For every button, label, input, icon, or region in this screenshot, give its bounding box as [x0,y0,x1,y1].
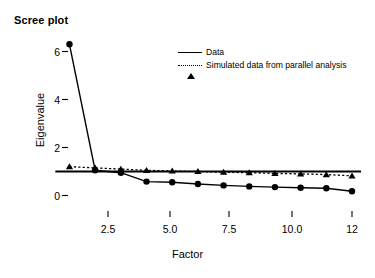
data-point [272,184,278,190]
data-point [220,182,226,188]
x-axis-ticks [108,211,352,217]
data-point [118,170,124,176]
plot-canvas [0,0,375,278]
data-point [195,181,201,187]
data-point [349,188,355,194]
data-point [143,178,149,184]
simulated-point [348,172,355,178]
data-point [246,183,252,189]
simulated-point [66,163,73,169]
data-point [297,185,303,191]
data-point [92,167,98,173]
data-point [66,41,72,47]
data-point [169,179,175,185]
y-axis-ticks [62,52,68,196]
data-point [323,185,329,191]
data-series-line [69,44,352,191]
scree-plot-figure: Scree plot Eigenvalue Factor 6 4 2 0 2.5… [0,0,375,278]
